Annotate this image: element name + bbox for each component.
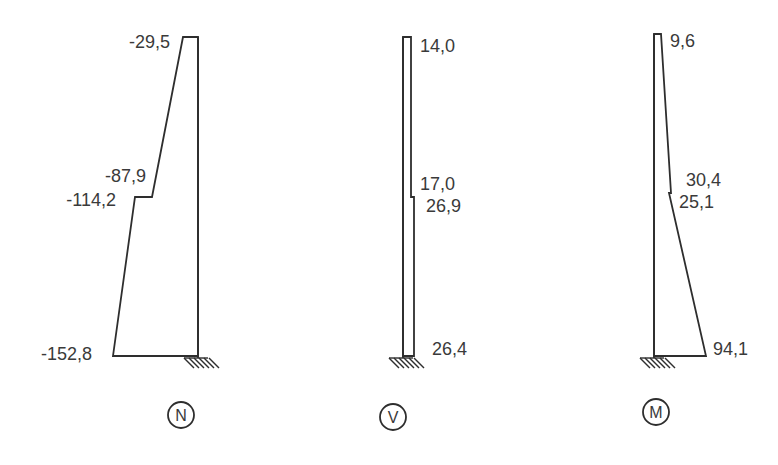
undefined: [168, 0, 199, 117]
fixed-support-icon: [184, 358, 219, 368]
support-hatch-line: [399, 358, 409, 368]
undefined: [403, 0, 411, 85]
m-label-step-lower: 25,1: [679, 192, 714, 212]
undefined: [403, 0, 411, 117]
normal-force-diagram: -29,5 -87,9 -114,2 -152,8 N: [41, 0, 219, 428]
undefined: [403, 0, 411, 181]
support-hatch-line: [655, 358, 665, 368]
n-label-step-upper: -87,9: [105, 166, 146, 186]
n-diagram-outline: [113, 37, 198, 356]
undefined: [161, 0, 198, 149]
undefined: [158, 0, 198, 165]
support-hatch-line: [414, 358, 424, 368]
m-caption: M: [649, 404, 662, 421]
undefined: [403, 0, 411, 149]
undefined: [403, 0, 414, 340]
v-label-step-lower: 26,9: [426, 196, 461, 216]
n-label-step-lower: -114,2: [66, 190, 116, 210]
undefined: [403, 0, 414, 229]
undefined: [171, 0, 198, 101]
support-hatch-line: [389, 358, 399, 368]
m-label-step-upper: 30,4: [686, 170, 721, 190]
support-hatch-line: [209, 358, 219, 368]
support-hatch-line: [189, 358, 199, 368]
fixed-support-icon: [640, 358, 675, 368]
support-hatch-line: [660, 358, 670, 368]
undefined: [403, 0, 411, 69]
bending-moment-diagram: 9,6 30,4 25,1 94,1 M: [640, 0, 748, 425]
support-hatch-line: [650, 358, 660, 368]
undefined: [164, 0, 198, 133]
m-label-top: 9,6: [670, 31, 695, 51]
internal-forces-figure: -29,5 -87,9 -114,2 -152,8 N 14,0 17,0 26…: [0, 0, 778, 465]
undefined: [403, 0, 411, 101]
support-hatch-line: [645, 358, 655, 368]
v-caption: V: [388, 409, 399, 426]
support-hatch-line: [409, 358, 419, 368]
v-diagram-outline: [403, 37, 414, 356]
v-label-bottom: 26,4: [432, 339, 467, 359]
n-label-top: -29,5: [129, 32, 170, 52]
undefined: [403, 0, 414, 308]
n-caption: N: [175, 407, 187, 424]
v-hatching: [403, 0, 414, 340]
v-label-step-upper: 17,0: [420, 174, 455, 194]
undefined: [403, 0, 411, 133]
support-hatch-line: [665, 358, 675, 368]
undefined: [403, 0, 414, 213]
n-label-bottom: -152,8: [41, 344, 92, 364]
shear-force-diagram: 14,0 17,0 26,9 26,4 V: [380, 0, 467, 430]
support-hatch-line: [199, 358, 209, 368]
undefined: [177, 0, 198, 69]
undefined: [403, 0, 414, 277]
undefined: [403, 0, 411, 53]
support-hatch-line: [184, 358, 194, 368]
support-hatch-line: [204, 358, 214, 368]
support-hatch-line: [640, 358, 650, 368]
undefined: [174, 0, 198, 85]
undefined: [403, 0, 414, 324]
support-hatch-line: [194, 358, 204, 368]
fixed-support-icon: [389, 358, 424, 368]
support-hatch-line: [394, 358, 404, 368]
undefined: [180, 0, 198, 53]
v-label-top: 14,0: [420, 36, 455, 56]
undefined: [403, 0, 414, 261]
m-label-bottom: 94,1: [713, 339, 748, 359]
undefined: [403, 0, 411, 165]
support-hatch-line: [404, 358, 414, 368]
undefined: [155, 0, 198, 181]
undefined: [403, 0, 414, 292]
